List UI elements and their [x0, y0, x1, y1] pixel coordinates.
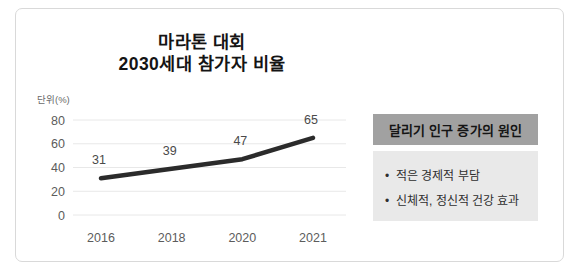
x-axis-label: 2016 [87, 231, 115, 245]
data-value-label: 31 [92, 153, 106, 167]
bullet-item: 적은 경제적 부담 [385, 164, 538, 189]
bullet-text: 적은 경제적 부담 [396, 169, 480, 183]
data-value-label: 47 [233, 134, 247, 148]
chart-area: 마라톤 대회 2030세대 참가자 비율 단위(%) 0204060803120… [16, 9, 388, 263]
infographic-card: 마라톤 대회 2030세대 참가자 비율 단위(%) 0204060803120… [15, 8, 564, 262]
chart-title: 마라톤 대회 2030세대 참가자 비율 [16, 31, 388, 75]
y-tick-label: 0 [58, 209, 65, 223]
y-tick-label: 20 [51, 185, 65, 199]
bullet-marker [385, 189, 396, 214]
y-tick-label: 60 [51, 137, 65, 151]
data-value-label: 65 [304, 113, 318, 127]
x-axis-label: 2021 [299, 231, 327, 245]
chart-title-line2: 2030세대 참가자 비율 [16, 53, 388, 75]
data-value-label: 39 [163, 144, 177, 158]
bullet-marker [385, 164, 396, 189]
side-panel-header: 달리기 인구 증가의 원인 [373, 114, 538, 145]
participation-line-chart: 020406080312016392018472020652021 [36, 96, 366, 251]
side-panel-body: 적은 경제적 부담 신체적, 정신적 건강 효과 [373, 151, 538, 221]
bullet-item: 신체적, 정신적 건강 효과 [385, 189, 538, 214]
side-panel: 달리기 인구 증가의 원인 적은 경제적 부담 신체적, 정신적 건강 효과 [373, 114, 538, 221]
y-tick-label: 80 [51, 114, 65, 128]
chart-title-line1: 마라톤 대회 [16, 31, 388, 53]
x-axis-label: 2020 [228, 231, 256, 245]
x-axis-label: 2018 [158, 231, 186, 245]
y-tick-label: 40 [51, 161, 65, 175]
bullet-text: 신체적, 정신적 건강 효과 [396, 194, 519, 208]
